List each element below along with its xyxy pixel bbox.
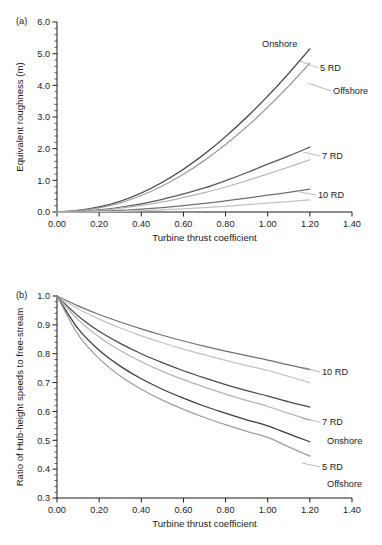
x-tick-label: 1.40 — [343, 505, 361, 515]
series-label-onshore: Onshore — [327, 436, 362, 446]
leader-line — [300, 61, 318, 68]
x-tick-label: 0.00 — [48, 505, 66, 515]
x-tick-label: 0.60 — [174, 505, 192, 515]
panel-tag: (a) — [16, 16, 27, 26]
y-tick-label: 3.0 — [37, 112, 50, 122]
y-tick-label: 2.0 — [37, 144, 50, 154]
x-tick-label: 0.00 — [48, 219, 66, 229]
curve-7-rd-offshore — [57, 160, 310, 212]
x-tick-label: 0.60 — [174, 219, 192, 229]
x-tick-label: 0.80 — [217, 219, 235, 229]
y-tick-label: 0.4 — [37, 464, 50, 474]
y-axis-title: Equivalent roughness (m) — [14, 62, 25, 171]
y-tick-label: 5.0 — [37, 49, 50, 59]
panel-b: (b)0.30.40.50.60.70.80.91.00.000.200.400… — [0, 272, 382, 545]
x-tick-label: 1.40 — [343, 219, 361, 229]
x-tick-label: 0.20 — [90, 505, 108, 515]
x-tick-label: 1.20 — [301, 505, 319, 515]
y-tick-label: 0.0 — [37, 207, 50, 217]
x-tick-label: 0.80 — [217, 505, 235, 515]
curve-5-rd-offshore — [57, 63, 310, 212]
x-tick-label: 1.00 — [259, 219, 277, 229]
x-tick-label: 0.40 — [132, 505, 150, 515]
leader-line — [302, 418, 320, 422]
x-tick-label: 0.40 — [132, 219, 150, 229]
series-label-5-rd: 5 RD — [322, 462, 343, 472]
panel-tag: (b) — [16, 290, 27, 300]
leader-line — [303, 152, 320, 156]
panel-b-plot: (b)0.30.40.50.60.70.80.91.00.000.200.400… — [0, 272, 382, 545]
y-axis-title: Ratio of Hub-height speeds to free-strea… — [14, 308, 25, 487]
y-tick-label: 0.9 — [37, 320, 50, 330]
x-axis-title: Turbine thrust coefficient — [152, 518, 257, 529]
y-tick-label: 1.0 — [37, 176, 50, 186]
curve-7-rd-offshore — [57, 296, 310, 420]
series-label-10-rd: 10 RD — [322, 367, 348, 377]
curve-10-rd-offshore — [57, 296, 310, 383]
leader-line — [302, 463, 320, 467]
series-label-7-rd: 7 RD — [322, 151, 343, 161]
leader-line — [300, 192, 316, 195]
series-label-offshore: Offshore — [333, 86, 368, 96]
y-tick-label: 0.3 — [37, 493, 50, 503]
y-tick-label: 0.5 — [37, 436, 50, 446]
panel-a-plot: (a)0.01.02.03.04.05.06.00.000.200.400.60… — [0, 0, 382, 272]
series-label-onshore: Onshore — [262, 39, 297, 49]
series-label-10-rd: 10 RD — [318, 190, 344, 200]
x-tick-label: 1.00 — [259, 505, 277, 515]
x-tick-label: 0.20 — [90, 219, 108, 229]
x-tick-label: 1.20 — [301, 219, 319, 229]
leader-line — [302, 367, 320, 372]
curve-5-rd-onshore — [57, 296, 310, 442]
curve-10-rd-onshore — [57, 296, 310, 370]
x-axis-title: Turbine thrust coefficient — [152, 232, 257, 243]
leader-line — [308, 83, 331, 91]
y-tick-label: 0.6 — [37, 407, 50, 417]
series-label-5-rd: 5 RD — [320, 63, 341, 73]
y-tick-label: 0.8 — [37, 349, 50, 359]
y-tick-label: 4.0 — [37, 81, 50, 91]
y-tick-label: 6.0 — [37, 17, 50, 27]
y-tick-label: 1.0 — [37, 291, 50, 301]
curve-5-rd-offshore — [57, 296, 310, 456]
series-label-offshore: Offshore — [327, 479, 362, 489]
y-tick-label: 0.7 — [37, 378, 50, 388]
series-label-7-rd: 7 RD — [322, 417, 343, 427]
curve-5-rd-onshore — [57, 49, 310, 212]
panel-a: (a)0.01.02.03.04.05.06.00.000.200.400.60… — [0, 0, 382, 272]
